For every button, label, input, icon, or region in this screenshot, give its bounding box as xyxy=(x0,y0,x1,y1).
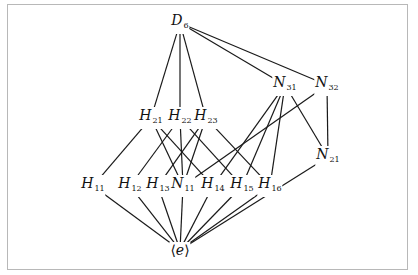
node-H11: H11 xyxy=(80,175,105,197)
node-D6: D6 xyxy=(170,12,189,34)
edge-N32-N11 xyxy=(190,90,319,181)
edge-D6-H21 xyxy=(154,32,178,110)
edge-N32-N21 xyxy=(327,94,328,148)
node-N21: N21 xyxy=(315,146,340,168)
edge-D6-N31 xyxy=(188,28,278,81)
edge-H21-H11 xyxy=(99,125,145,179)
node-H12: H12 xyxy=(117,175,142,197)
node-H13: H13 xyxy=(145,175,170,197)
node-e: ⟨e⟩ xyxy=(169,242,190,258)
edge-N11-e xyxy=(180,195,182,242)
node-N31: N31 xyxy=(272,74,297,96)
node-H15: H15 xyxy=(229,175,254,197)
node-N11: N11 xyxy=(170,175,195,197)
edge-H14-e xyxy=(184,194,209,243)
node-H23: H23 xyxy=(193,107,218,129)
edge-N31-H14 xyxy=(218,92,280,178)
node-H22: H22 xyxy=(167,107,192,129)
edge-N31-H16 xyxy=(271,94,283,177)
edge-D6-H23 xyxy=(182,32,203,110)
node-H21: H21 xyxy=(138,107,163,129)
edge-H22-H15 xyxy=(186,125,236,180)
node-H14: H14 xyxy=(200,175,225,197)
edge-N31-N21 xyxy=(290,93,324,150)
node-H16: H16 xyxy=(257,175,282,197)
edge-H21-N11 xyxy=(155,126,179,178)
edge-N31-H15 xyxy=(246,93,282,177)
edge-H15-e xyxy=(186,192,236,244)
edge-H16-e xyxy=(187,191,263,245)
lattice-edges xyxy=(0,0,418,275)
edge-D6-N32 xyxy=(188,26,318,81)
node-N32: N32 xyxy=(314,74,339,96)
